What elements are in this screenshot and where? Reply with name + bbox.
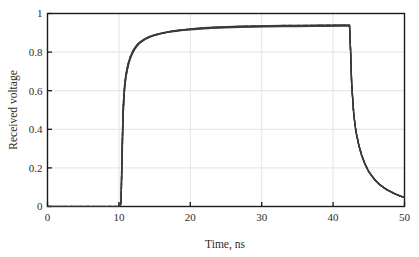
chart-figure: 0102030405000.20.40.60.81 Time, ns Recei… <box>0 0 419 257</box>
x-tick-label: 40 <box>328 211 340 223</box>
x-tick-label: 0 <box>45 211 51 223</box>
x-tick-label: 50 <box>399 211 411 223</box>
y-tick-label: 1 <box>37 7 43 19</box>
x-tick-label: 10 <box>113 211 125 223</box>
y-tick-label: 0.2 <box>29 162 43 174</box>
chart-plot-area: 0102030405000.20.40.60.81 Time, ns Recei… <box>0 0 419 257</box>
x-axis-title: Time, ns <box>205 238 245 251</box>
y-axis-title: Received voltage <box>7 70 20 150</box>
x-tick-label: 30 <box>256 211 268 223</box>
y-tick-label: 0 <box>37 200 43 212</box>
y-tick-label: 0.4 <box>29 123 43 135</box>
y-tick-label: 0.8 <box>29 46 43 58</box>
x-tick-label: 20 <box>185 211 197 223</box>
y-tick-label: 0.6 <box>29 85 43 97</box>
